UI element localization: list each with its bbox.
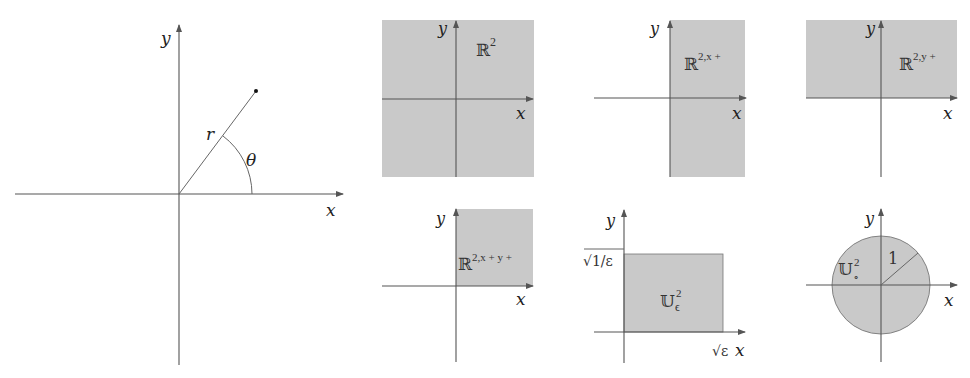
x-tick-label: √ε — [712, 343, 728, 359]
set-symbol: ℝ — [458, 254, 473, 274]
u2-disk-panel: y x 1 𝕌 2 ∘ — [806, 209, 957, 362]
radius-label: r — [206, 124, 215, 144]
set-subscript: ∘ — [853, 271, 859, 282]
polar-panel: y x r θ — [15, 25, 343, 365]
set-symbol: ℝ — [684, 54, 699, 74]
set-superscript: 2 — [490, 35, 496, 49]
set-superscript: 2 — [676, 287, 682, 299]
set-superscript: 2,x + y + — [472, 251, 512, 263]
x-axis-label: x — [516, 103, 526, 123]
x-axis-label: x — [943, 103, 953, 123]
y-axis-label: y — [435, 209, 446, 228]
set-subscript: ϵ — [675, 300, 680, 314]
set-superscript: 2 — [854, 256, 860, 268]
diagram-canvas: y x r θ y x ℝ 2 y x ℝ 2,x + y x ℝ 2,y + — [0, 0, 970, 378]
x-axis-label: x — [326, 200, 336, 220]
y-axis-label: y — [605, 211, 616, 230]
x-axis-label: x — [732, 103, 742, 123]
angle-label: θ — [246, 150, 256, 170]
y-tick-label: √1/ε — [583, 253, 613, 269]
x-axis-label: x — [944, 290, 954, 310]
point-marker — [254, 89, 258, 93]
y-axis-label: y — [437, 19, 448, 38]
set-symbol: ℝ — [899, 54, 914, 74]
y-axis-label: y — [160, 28, 171, 48]
r2-xplus-yplus-panel: y x ℝ 2,x + y + — [382, 209, 533, 362]
set-symbol: 𝕌 — [838, 259, 853, 279]
y-axis-label: y — [865, 19, 876, 38]
radius-label: 1 — [888, 249, 898, 268]
u2-epsilon-panel: y x √1/ε √ε 𝕌 2 ϵ — [583, 210, 745, 363]
y-axis-label: y — [649, 19, 660, 38]
x-axis-label: x — [516, 289, 526, 309]
r2-panel: y x ℝ 2 — [382, 19, 534, 177]
radius-line — [179, 91, 256, 194]
x-axis-label: x — [735, 340, 745, 360]
y-axis-label: y — [864, 209, 875, 228]
set-symbol: 𝕌 — [660, 291, 675, 311]
set-superscript: 2,x + — [698, 50, 721, 62]
set-symbol: ℝ — [476, 40, 491, 60]
r2-xplus-panel: y x ℝ 2,x + — [594, 19, 746, 177]
r2-yplus-panel: y x ℝ 2,y + — [806, 19, 957, 177]
set-superscript: 2,y + — [913, 50, 936, 62]
shaded-region — [456, 209, 533, 286]
